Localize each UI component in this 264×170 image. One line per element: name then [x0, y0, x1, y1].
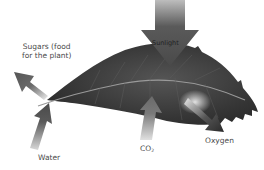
co2-label-subscript: 2	[151, 148, 154, 153]
sugars-label-line2: for the plant)	[22, 51, 71, 60]
water-label: Water	[38, 153, 60, 162]
water-arrow-icon	[30, 103, 52, 150]
sugars-label-line1: Sugars (food	[22, 42, 71, 51]
sunlight-label: Sunlight	[152, 39, 179, 48]
sugars-arrow-icon	[14, 72, 48, 100]
co2-label: CO2	[140, 144, 154, 155]
sugars-label: Sugars (food for the plant)	[22, 42, 71, 60]
oxygen-label: Oxygen	[205, 136, 234, 145]
photosynthesis-diagram: Sugars (food for the plant) Sunlight Wat…	[0, 0, 264, 170]
co2-label-main: CO	[140, 144, 151, 153]
